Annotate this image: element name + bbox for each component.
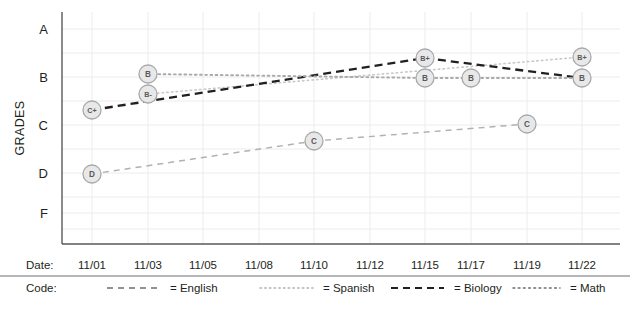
x-tick-1112: 11/12 [356,259,384,271]
horizontal-gridlines [62,29,620,229]
data-marker-english-1119[interactable]: C [518,115,536,133]
legend-label: = Math [570,282,605,294]
marker-label: B [579,74,585,83]
marker-label: C [311,137,317,146]
x-tick-1110: 11/10 [300,259,328,271]
y-tick-a: A [39,22,48,37]
y-tick-c: C [39,118,48,133]
x-axis-caption: Date: [26,259,54,271]
x-tick-1108: 11/08 [245,259,273,271]
series-line-biology [92,58,582,110]
data-marker-math-1115[interactable]: B [416,69,434,87]
series-line-spanish [148,57,582,94]
data-marker-english-1101[interactable]: D [83,165,101,183]
x-tick-1115: 11/15 [411,259,439,271]
y-axis-title: GRADES [13,100,27,155]
x-tick-1105: 11/05 [189,259,217,271]
data-marker-math-1117[interactable]: B [462,69,480,87]
y-tick-labels: A B C D F [39,22,49,221]
marker-label: C+ [87,106,96,115]
data-marker-spanish-1122[interactable]: B+ [573,48,591,66]
marker-label: B- [144,90,152,99]
data-marker-math-1103[interactable]: B [139,65,157,83]
legend-label: = Biology [454,282,502,294]
legend-label: = English [170,282,218,294]
marker-label: C [524,120,530,129]
data-marker-biology-1115[interactable]: B+ [416,49,434,67]
marker-label: B [145,70,151,79]
grades-line-chart: GRADES A B C D F [0,0,630,311]
x-tick-1103: 11/03 [134,259,162,271]
legend-item-math[interactable]: = Math [513,282,605,294]
x-tick-labels: 11/01 11/03 11/05 11/08 11/10 11/12 11/1… [78,259,596,271]
y-tick-b: B [39,70,48,85]
x-tick-1122: 11/22 [568,259,596,271]
data-marker-english-1110[interactable]: C [305,132,323,150]
data-marker-biology-1122[interactable]: B [573,69,591,87]
marker-label: B [422,74,428,83]
legend-label: = Spanish [323,282,374,294]
marker-label: B [468,74,474,83]
data-marker-biology-1101[interactable]: C+ [83,101,101,119]
legend-item-biology[interactable]: = Biology [391,282,502,294]
data-marker-spanish-1103[interactable]: B- [139,85,157,103]
x-tick-1119: 11/19 [513,259,541,271]
legend-caption: Code: [26,282,57,294]
marker-label: D [89,170,95,179]
legend-item-spanish[interactable]: = Spanish [260,282,374,294]
x-tick-1101: 11/01 [78,259,106,271]
marker-label: B+ [420,54,429,63]
chart-container: GRADES A B C D F [0,0,630,311]
vertical-gridlines [92,12,582,244]
y-tick-f: F [40,206,48,221]
y-tick-d: D [39,166,48,181]
marker-label: B+ [577,53,586,62]
x-tick-1117: 11/17 [457,259,485,271]
legend-item-english[interactable]: = English [107,282,218,294]
